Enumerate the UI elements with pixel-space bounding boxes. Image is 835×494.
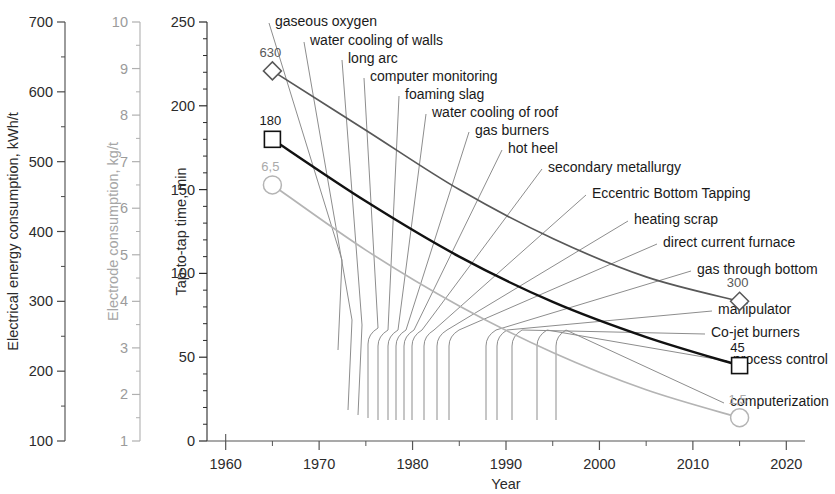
annotation-label: manipulator xyxy=(718,301,791,317)
annotation-leader-line xyxy=(424,195,586,420)
y-tick-label-energy: 400 xyxy=(29,224,53,240)
x-tick-label: 2020 xyxy=(770,456,802,472)
annotation-label: hot heel xyxy=(508,140,558,156)
tap-to-tap-time-multi-axis-chart: 100200300400500600700Electrical energy c… xyxy=(0,0,835,494)
x-tick-label: 1970 xyxy=(303,456,335,472)
series-end-value-label: 45 xyxy=(730,340,744,355)
y-tick-label-energy: 600 xyxy=(29,84,53,100)
data-point-marker-diamond xyxy=(263,62,281,80)
x-axis-title: Year xyxy=(491,476,520,492)
y-tick-label-taptotap: 200 xyxy=(171,98,195,114)
y-tick-label-energy: 500 xyxy=(29,154,53,170)
y-tick-label-taptotap: 250 xyxy=(171,14,195,30)
y-tick-label-electrode: 6 xyxy=(120,200,128,216)
y-tick-label-taptotap: 50 xyxy=(179,349,195,365)
y-tick-label-energy: 700 xyxy=(29,14,53,30)
data-point-marker-square xyxy=(732,358,748,374)
data-point-marker-square xyxy=(264,131,280,147)
annotation-label: gaseous oxygen xyxy=(275,13,377,29)
annotation-leader-line xyxy=(364,78,378,418)
y-axis-taptotap: 050100150200250Tap-to-tap time, min xyxy=(171,14,207,449)
y-tick-label-electrode: 10 xyxy=(112,14,128,30)
x-tick-label: 2000 xyxy=(583,456,615,472)
annotation-leader-line xyxy=(404,150,502,420)
annotation-label: direct current furnace xyxy=(663,234,795,250)
annotation-label: computer monitoring xyxy=(370,68,498,84)
y-axis-title-electrode: Electrode consumption, kg/t xyxy=(105,142,121,321)
annotation-label: gas through bottom xyxy=(697,261,818,277)
y-tick-label-electrode: 7 xyxy=(120,154,128,170)
series-energy: 630300 xyxy=(260,45,749,310)
data-point-marker-circle xyxy=(263,176,281,194)
annotation-label: long arc xyxy=(348,50,398,66)
y-axis-title-energy: Electrical energy consumption, kWh/t xyxy=(5,112,21,351)
x-axis: 1960197019801990200020102020Year xyxy=(207,434,805,492)
y-axis-energy: 100200300400500600700Electrical energy c… xyxy=(5,14,65,449)
annotation-label: foaming slag xyxy=(405,86,484,102)
y-axis-electrode: 12345678910Electrode consumption, kg/t xyxy=(105,14,140,449)
series-end-value-label: 1,5 xyxy=(729,392,747,407)
x-tick-label: 1980 xyxy=(396,456,428,472)
annotation-leader-line xyxy=(497,311,712,420)
series-start-value-label: 630 xyxy=(260,45,282,60)
annotation-label: Eccentric Bottom Tapping xyxy=(592,185,751,201)
y-tick-label-electrode: 9 xyxy=(120,61,128,77)
series-start-value-label: 6,5 xyxy=(261,159,279,174)
annotation-leader-line xyxy=(342,60,362,415)
x-tick-label: 1960 xyxy=(210,456,242,472)
y-tick-label-electrode: 3 xyxy=(120,340,128,356)
series-start-value-label: 180 xyxy=(260,113,282,128)
y-tick-label-electrode: 5 xyxy=(120,247,128,263)
chart-figure: 100200300400500600700Electrical energy c… xyxy=(0,0,835,494)
series-end-value-label: 300 xyxy=(727,275,749,290)
annotation-label: gas burners xyxy=(475,122,549,138)
y-tick-label-energy: 300 xyxy=(29,293,53,309)
annotation-leader-line xyxy=(486,271,691,420)
data-point-marker-circle xyxy=(731,409,749,427)
y-tick-label-energy: 100 xyxy=(29,433,53,449)
x-tick-label: 2010 xyxy=(677,456,709,472)
x-tick-label: 1990 xyxy=(490,456,522,472)
y-axis-title-taptotap: Tap-to-tap time, min xyxy=(173,167,189,295)
annotation-label: secondary metallurgy xyxy=(548,159,681,175)
y-tick-label-electrode: 4 xyxy=(120,293,128,309)
annotation-label: heating scrap xyxy=(634,211,718,227)
annotation-label: water cooling of roof xyxy=(431,104,558,120)
y-tick-label-energy: 200 xyxy=(29,363,53,379)
y-tick-label-electrode: 1 xyxy=(120,433,128,449)
y-tick-label-taptotap: 0 xyxy=(187,433,195,449)
annotation-label: water cooling of walls xyxy=(309,32,443,48)
y-tick-label-electrode: 8 xyxy=(120,107,128,123)
annotation-label: Co-jet burners xyxy=(711,324,800,340)
y-tick-label-electrode: 2 xyxy=(120,386,128,402)
